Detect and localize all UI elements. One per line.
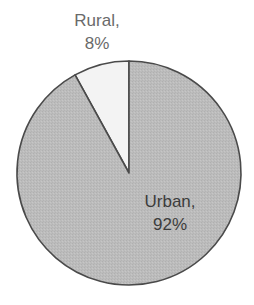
pie-chart — [0, 0, 254, 305]
rural-label: Rural, 8% — [67, 9, 127, 55]
urban-label-value: 92% — [134, 213, 206, 236]
urban-label-name: Urban, — [134, 190, 206, 213]
urban-label: Urban, 92% — [134, 190, 206, 236]
rural-label-name: Rural, — [67, 9, 127, 32]
urban-slice — [17, 61, 241, 285]
rural-label-value: 8% — [67, 32, 127, 55]
